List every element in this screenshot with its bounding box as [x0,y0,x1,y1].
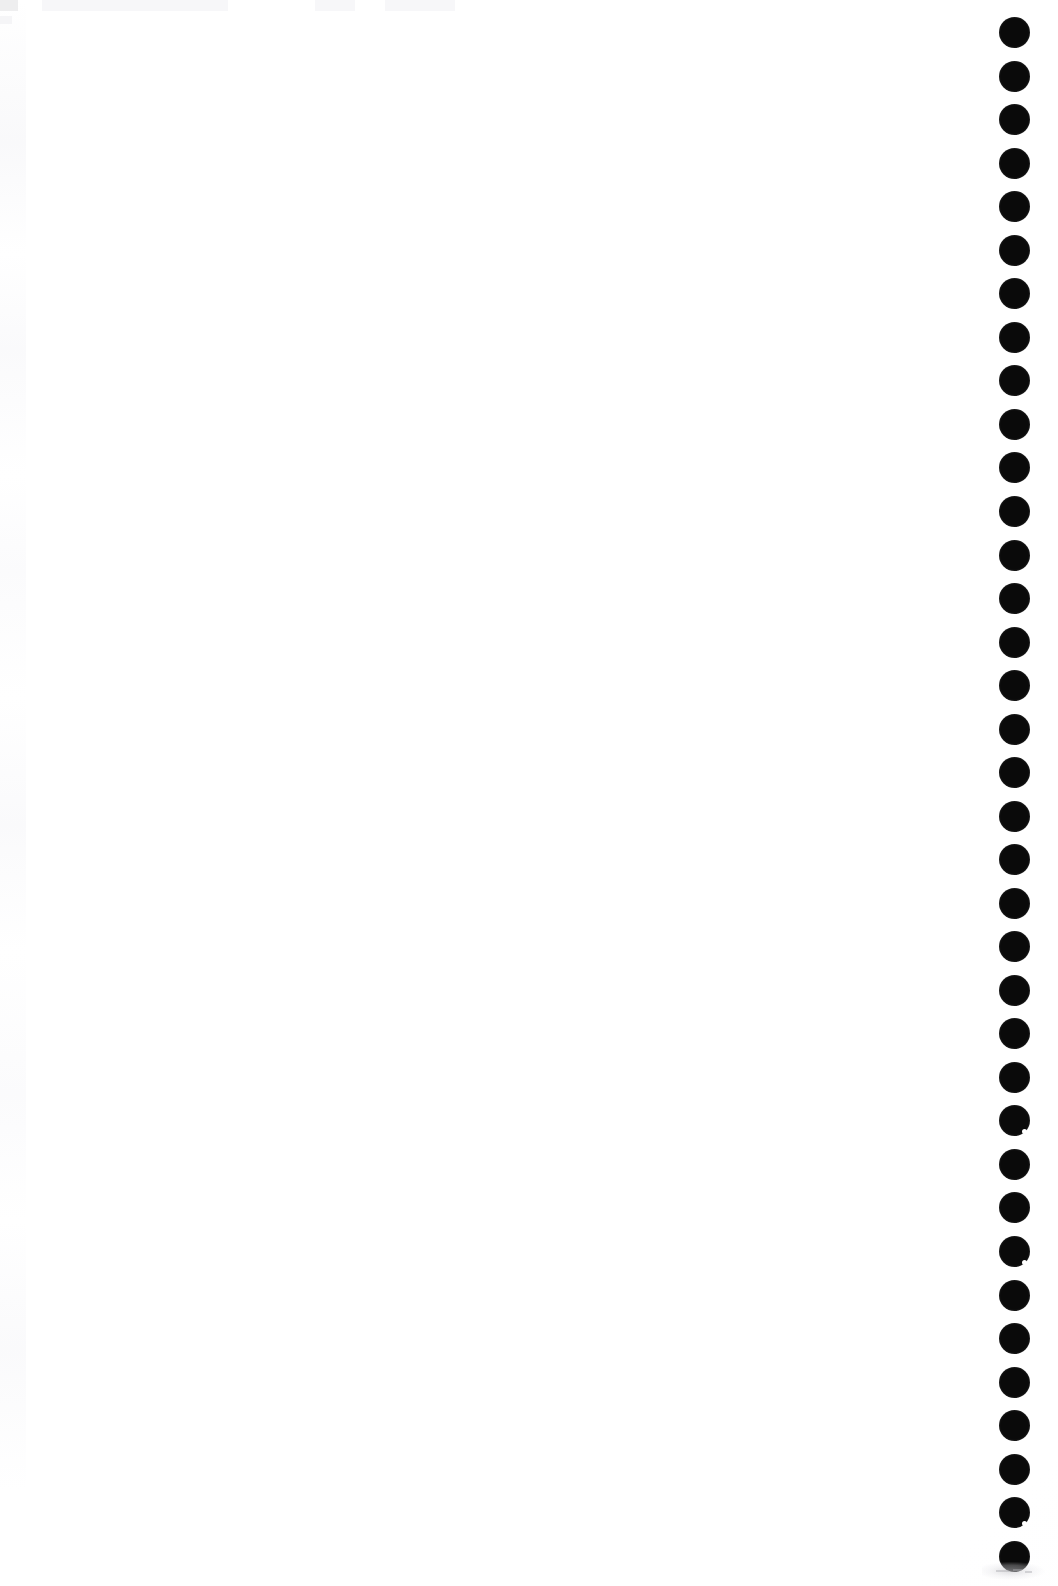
punch-hole [999,888,1030,919]
punch-hole [999,844,1030,875]
punch-hole [999,1149,1030,1180]
punch-hole [999,1454,1030,1485]
punch-hole [999,1541,1030,1572]
punch-hole [999,1280,1030,1311]
punch-hole [999,1497,1030,1528]
punch-hole [999,409,1030,440]
punch-hole [999,1367,1030,1398]
punch-hole [999,801,1030,832]
punch-hole [999,1192,1030,1223]
punch-hole-column [0,0,1058,1586]
punch-hole [999,714,1030,745]
punch-hole [999,191,1030,222]
punch-hole [999,1410,1030,1441]
punch-hole [999,1236,1030,1267]
punch-hole [999,452,1030,483]
punch-hole [999,148,1030,179]
punch-hole [999,496,1030,527]
punch-hole [999,235,1030,266]
punch-hole [999,1018,1030,1049]
punch-hole-nick-artifact [1022,1260,1027,1265]
punch-hole [999,61,1030,92]
punch-hole [999,583,1030,614]
punch-hole [999,757,1030,788]
punch-hole [999,931,1030,962]
punch-hole-nick-artifact [1022,1521,1027,1526]
punch-hole [999,365,1030,396]
punch-hole [999,104,1030,135]
punch-hole [999,322,1030,353]
punch-hole [999,278,1030,309]
punch-hole [999,627,1030,658]
punch-hole [999,1105,1030,1136]
punch-hole [999,670,1030,701]
scanned-page [0,0,1058,1586]
punch-hole [999,975,1030,1006]
punch-hole [999,540,1030,571]
punch-hole [999,17,1030,48]
punch-hole [999,1062,1030,1093]
punch-hole [999,1323,1030,1354]
punch-hole-nick-artifact [1022,1129,1027,1134]
